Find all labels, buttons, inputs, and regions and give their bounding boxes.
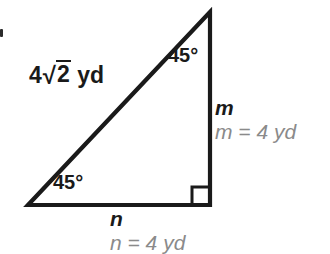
answer-value-m: m = 4 yd [215,121,296,142]
hypotenuse-length-label: 4√2 yd [29,61,104,87]
right-angle-marker-icon [192,187,210,205]
answer-value-n: n = 4 yd [110,232,185,253]
edge-crop-artifact [0,29,3,37]
hypotenuse-coefficient: 4 [29,62,42,88]
geometry-figure-canvas: 4√2 yd 45° 45° m m = 4 yd n n = 4 yd [0,0,330,254]
square-root-icon: √2 [42,61,71,87]
side-label-m: m [215,97,234,118]
angle-bottom-left-label: 45° [53,172,83,192]
radicand-value: 2 [56,60,71,86]
hypotenuse-unit: yd [77,62,104,88]
angle-top-label: 45° [168,45,198,65]
radical-sign-glyph: √ [43,64,56,88]
side-label-n: n [110,208,123,229]
